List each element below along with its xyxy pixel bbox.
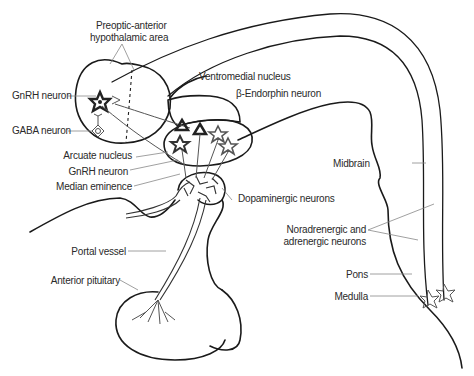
label-ventromedial-nucleus: Ventromedial nucleus xyxy=(199,71,291,83)
preoptic-area xyxy=(75,44,170,143)
label-arcuate-nucleus: Arcuate nucleus xyxy=(60,150,132,162)
label-dopaminergic-neurons: Dopaminergic neurons xyxy=(238,193,335,205)
label-preoptic-line2: hypothalamic area xyxy=(90,32,168,44)
label-portal-vessel: Portal vessel xyxy=(60,246,126,258)
label-anterior-pituitary: Anterior pituitary xyxy=(30,275,120,287)
label-median-eminence: Median eminence xyxy=(50,181,132,193)
label-gnrh-neuron-top: GnRH neuron xyxy=(12,90,72,102)
fiber-tract xyxy=(112,14,444,305)
ventromedial-nucleus xyxy=(168,76,240,126)
median-eminence xyxy=(176,173,225,290)
label-medulla: Medulla xyxy=(320,291,368,303)
label-pons: Pons xyxy=(330,269,368,281)
label-gnrh-neuron-bottom: GnRH neuron xyxy=(60,166,128,178)
label-preoptic-line1: Preoptic-anterior xyxy=(96,20,167,32)
portal-vessel xyxy=(126,196,206,300)
label-noradrenergic-line2: adrenergic neurons xyxy=(280,236,366,248)
label-gaba-neuron: GABA neuron xyxy=(12,125,71,137)
label-noradrenergic-line1: Noradrenergic and xyxy=(280,224,366,236)
gaba-neuron xyxy=(92,114,104,137)
label-beta-endorphin-neuron: β-Endorphin neuron xyxy=(236,88,321,100)
label-midbrain: Midbrain xyxy=(333,158,370,170)
anterior-pituitary xyxy=(116,290,241,360)
brain-outline xyxy=(30,102,462,368)
